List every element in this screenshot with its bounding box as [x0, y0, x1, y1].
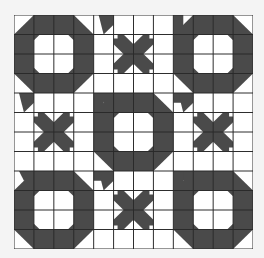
quilt-pattern: [14, 15, 253, 249]
